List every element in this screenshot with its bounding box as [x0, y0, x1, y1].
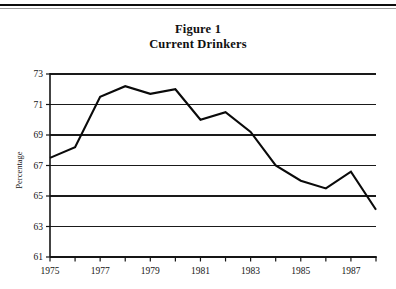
y-tick-label-69: 69 — [34, 130, 44, 140]
x-tick-label-1985: 1985 — [291, 266, 310, 276]
x-tick-label-1983: 1983 — [241, 266, 260, 276]
x-tick-labels-group: 1975197719791981198319851987 — [41, 266, 361, 276]
figure-container: Figure 1 Current Drinkers 73716967656361… — [0, 0, 396, 289]
x-tick-label-1981: 1981 — [191, 266, 210, 276]
x-tick-label-1975: 1975 — [41, 266, 60, 276]
y-tick-label-65: 65 — [34, 191, 44, 201]
y-tick-label-71: 71 — [34, 100, 44, 110]
y-tick-label-63: 63 — [34, 222, 44, 232]
x-tick-label-1987: 1987 — [341, 266, 360, 276]
line-chart: 73716967656361 1975197719791981198319851… — [0, 0, 396, 289]
y-tick-labels-group: 73716967656361 — [34, 69, 44, 262]
y-tick-label-67: 67 — [34, 161, 44, 171]
y-tick-label-61: 61 — [34, 252, 44, 262]
y-axis-title: Percentage — [14, 151, 24, 189]
y-axis-title-group: Percentage — [14, 151, 24, 189]
plot-area: 73716967656361 1975197719791981198319851… — [0, 0, 396, 289]
x-tick-label-1979: 1979 — [141, 266, 160, 276]
y-tick-label-73: 73 — [34, 69, 44, 79]
x-tick-label-1977: 1977 — [91, 266, 110, 276]
